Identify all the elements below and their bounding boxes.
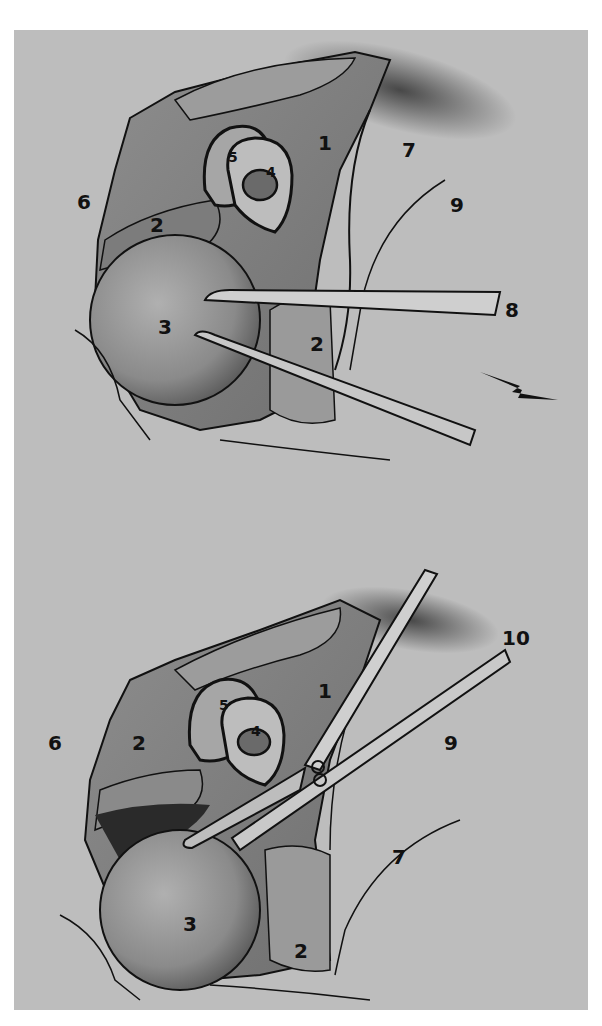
label-3: 3	[183, 914, 197, 934]
label-7: 7	[392, 847, 406, 867]
label-2b: 2	[294, 941, 308, 961]
label-4: 4	[251, 724, 261, 738]
label-6: 6	[77, 192, 91, 212]
label-9: 9	[450, 195, 464, 215]
label-8: 8	[505, 300, 519, 320]
bottom-figure	[60, 570, 510, 1000]
label-9: 9	[444, 733, 458, 753]
label-5: 5	[228, 150, 238, 164]
label-10: 10	[502, 628, 530, 648]
surgical-illustration	[0, 0, 602, 1026]
label-4: 4	[266, 165, 276, 179]
label-2a: 2	[132, 733, 146, 753]
label-1: 1	[318, 133, 332, 153]
label-6: 6	[48, 733, 62, 753]
label-2b: 2	[310, 334, 324, 354]
label-1: 1	[318, 681, 332, 701]
label-5: 5	[219, 698, 229, 712]
label-7: 7	[402, 140, 416, 160]
label-2a: 2	[150, 215, 164, 235]
lightning-arrow-icon	[480, 372, 558, 400]
top-figure	[75, 20, 558, 460]
label-3: 3	[158, 317, 172, 337]
